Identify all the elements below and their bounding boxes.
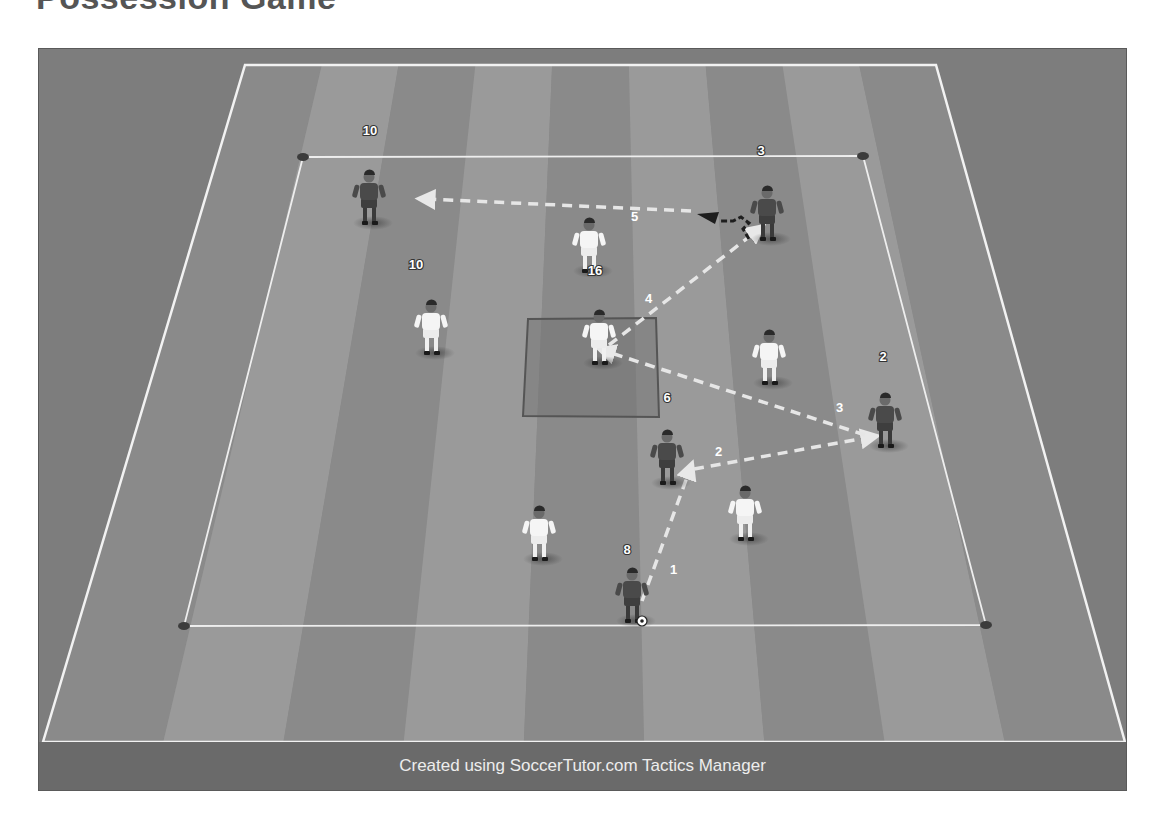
player-number-label: 10 (409, 257, 423, 272)
cone-icon (178, 622, 190, 630)
footer-credit: Created using SoccerTutor.com Tactics Ma… (39, 742, 1126, 790)
pass-step-label: 5 (631, 209, 638, 224)
pitch-canvas: 12345 1031610268 (39, 49, 1127, 791)
player-number-label: 10 (363, 123, 377, 138)
tactics-diagram: 12345 1031610268 Created using SoccerTut… (38, 48, 1127, 791)
player-number-label: 3 (757, 143, 764, 158)
pass-step-label: 1 (670, 562, 677, 577)
cone-icon (980, 621, 992, 629)
player-number-label: 8 (623, 542, 630, 557)
player-number-label: 6 (663, 390, 670, 405)
cone-icon (297, 153, 309, 161)
pass-step-label: 2 (715, 444, 722, 459)
pass-step-label: 4 (645, 291, 653, 306)
pass-step-label: 3 (836, 400, 843, 415)
page-title: Possession Game (36, 0, 336, 17)
cone-icon (857, 152, 869, 160)
player-number-label: 2 (879, 349, 886, 364)
player-number-label: 16 (588, 263, 602, 278)
